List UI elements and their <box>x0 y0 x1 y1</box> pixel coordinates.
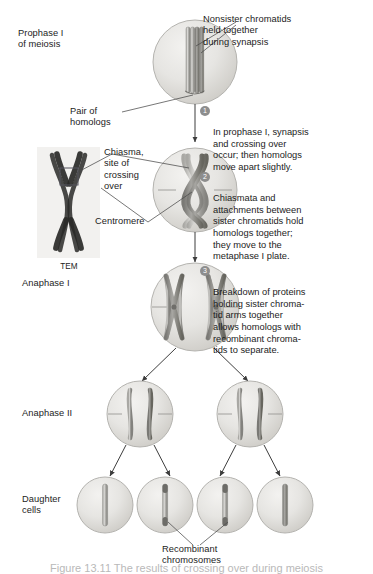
callout-2: 2 Chiasmata and attachments between sist… <box>200 170 373 263</box>
callout-3-badge: 3 <box>200 266 210 276</box>
arrow-to-daughter-4 <box>264 445 280 476</box>
leader-pair-homologs <box>122 95 193 112</box>
callout-3: 3 Breakdown of proteins holding sister c… <box>200 264 373 357</box>
label-anaphase-i: Anaphase I <box>22 278 70 289</box>
callout-3-text: Breakdown of proteins holding sister chr… <box>213 287 306 355</box>
label-pair-of-homologs: Pair of homologs <box>70 106 111 129</box>
callout-1-badge: 1 <box>200 106 210 116</box>
cell-daughter-4 <box>257 477 313 533</box>
cell-daughter-1 <box>77 477 133 533</box>
cell-daughter-2 <box>137 477 193 533</box>
label-anaphase-ii: Anaphase II <box>22 408 72 419</box>
label-nonsister-chromatids: Nonsister chromatids held together durin… <box>203 14 291 48</box>
label-daughter-cells: Daughter cells <box>22 494 61 517</box>
cell-anaphase-ii-left <box>107 381 173 447</box>
tetrad-synapsed <box>185 27 205 94</box>
callout-1: 1 In prophase I, synapsis and crossing o… <box>200 104 373 174</box>
arrow-to-daughter-1 <box>110 445 126 476</box>
cell-anaphase-ii-right <box>217 381 283 447</box>
arrow-anaphase1-to-anaphase2-left <box>142 348 176 381</box>
label-prophase-i: Prophase I of meiosis <box>18 28 63 51</box>
arrow-to-daughter-3 <box>220 445 236 476</box>
figure-caption-cropped: Figure 13.11 The results of crossing ove… <box>0 562 373 574</box>
label-centromere: Centromere <box>95 216 145 227</box>
tem-micrograph <box>37 147 100 258</box>
label-chiasma: Chiasma, site of crossing over <box>104 147 144 193</box>
arrow-to-daughter-2 <box>154 445 170 476</box>
label-tem-caption: TEM <box>48 262 90 271</box>
callout-2-badge: 2 <box>200 172 210 182</box>
callout-1-text: In prophase I, synapsis and crossing ove… <box>213 127 309 172</box>
callout-2-text: Chiasmata and attachments between sister… <box>213 193 303 261</box>
